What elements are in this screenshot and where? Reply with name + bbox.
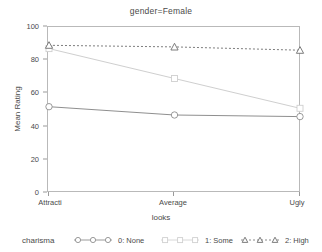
- chart-figure: gender=Female Mean Rating 100 80 60 40 2…: [0, 0, 322, 252]
- y-axis-label: Mean Rating: [13, 44, 22, 174]
- legend-label: 0: None: [116, 236, 144, 245]
- x-tick-mark: [48, 192, 49, 196]
- chart-legend: charisma 0: None 1: Some: [0, 232, 322, 248]
- data-point: [171, 112, 177, 118]
- y-tick-label: 20: [31, 154, 39, 163]
- legend-key-triangle-icon: [240, 235, 280, 245]
- data-point: [297, 105, 303, 111]
- y-tick-label: 0: [35, 188, 39, 197]
- y-tick-label: 60: [31, 88, 39, 97]
- chart-title: gender=Female: [0, 6, 322, 16]
- x-tick-label-average: Average: [159, 198, 187, 207]
- legend-item-1-some[interactable]: 1: Some: [160, 235, 233, 245]
- y-axis: Mean Rating 100 80 60 40 20 0: [0, 26, 47, 192]
- legend-item-2-high[interactable]: 2: High: [240, 235, 309, 245]
- data-point: [297, 113, 303, 119]
- legend-key-circle-icon: [73, 235, 113, 245]
- y-tick-label: 40: [31, 121, 39, 130]
- plot-area: [47, 26, 300, 192]
- series-layer: [48, 27, 301, 193]
- x-tick-mark: [299, 192, 300, 196]
- legend-label: 2: High: [283, 236, 309, 245]
- legend-label: 1: Some: [203, 236, 233, 245]
- legend-item-0-none[interactable]: 0: None: [73, 235, 144, 245]
- data-point: [46, 104, 52, 110]
- x-tick-label-attracti: Attracti: [38, 198, 61, 207]
- data-point: [45, 42, 52, 49]
- y-tick-label: 100: [26, 22, 39, 31]
- y-tick-label: 80: [31, 55, 39, 64]
- data-point: [172, 76, 178, 82]
- legend-key-square-icon: [160, 235, 200, 245]
- x-tick-mark: [173, 192, 174, 196]
- x-tick-label-ugly: Ugly: [289, 198, 304, 207]
- x-axis-label: looks: [0, 213, 322, 222]
- legend-title: charisma: [22, 236, 54, 245]
